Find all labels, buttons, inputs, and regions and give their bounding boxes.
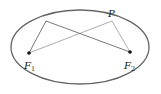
- segment-f1-q: [29, 21, 46, 53]
- focus-f1-point: [27, 51, 31, 55]
- segment-f1-p: [29, 21, 112, 53]
- ellipse-diagram: P F1 F2: [0, 0, 161, 94]
- point-p-label: P: [107, 8, 115, 19]
- segment-p-f2: [112, 21, 130, 52]
- focus-f2-label: F2: [123, 60, 135, 73]
- focus-f1-label: F1: [23, 60, 35, 73]
- segment-q-f2: [46, 21, 130, 52]
- focus-f2-point: [128, 50, 132, 54]
